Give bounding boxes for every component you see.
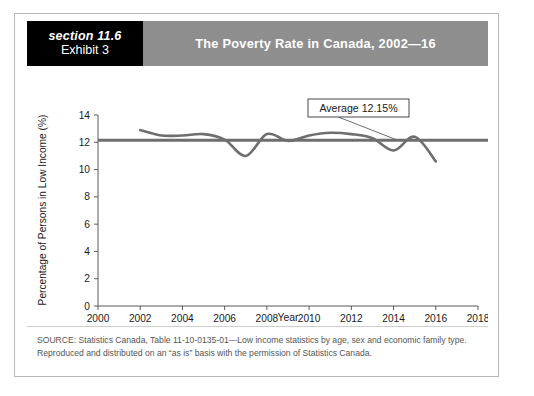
y-tick-label: 12 [79,137,91,148]
axes [98,115,478,306]
x-tick-label: 2004 [171,313,194,323]
x-tick-label: 2002 [129,313,152,323]
x-tick-label: 2006 [213,313,236,323]
y-axis: 02468101214 [79,110,98,312]
x-tick-label: 2012 [340,313,363,323]
source-divider [27,326,488,327]
section-block: section 11.6 Exhibit 3 [27,21,143,66]
x-tick-label: 2016 [424,313,447,323]
exhibit-label: Exhibit 3 [61,43,109,57]
x-axis-title: Year [278,312,300,322]
callout-label: Average 12.15% [319,102,398,114]
poverty-rate-line-chart: 02468101214 2000200220042006200820102012… [27,72,488,322]
exhibit-title: The Poverty Rate in Canada, 2002—16 [143,21,488,66]
x-tick-label: 2008 [256,313,279,323]
section-label: section 11.6 [48,29,121,43]
y-tick-label: 2 [84,273,90,284]
y-tick-label: 0 [84,301,90,312]
x-tick-label: 2014 [382,313,405,323]
x-tick-label: 2018 [467,313,488,323]
x-tick-label: 2010 [298,313,321,323]
average-callout: Average 12.15% [308,99,409,117]
source-note: SOURCE: Statistics Canada, Table 11-10-0… [37,334,483,361]
poverty-rate-line [140,130,436,161]
y-tick-label: 4 [84,246,90,257]
chart-svg: 02468101214 2000200220042006200820102012… [27,72,488,322]
y-tick-label: 8 [84,191,90,202]
y-tick-label: 10 [79,164,91,175]
exhibit-header: section 11.6 Exhibit 3 The Poverty Rate … [27,21,488,66]
exhibit-card: section 11.6 Exhibit 3 The Poverty Rate … [14,13,499,377]
y-tick-label: 6 [84,219,90,230]
y-axis-title: Percentage of Persons in Low Income (%) [37,115,48,306]
x-tick-label: 2000 [87,313,110,323]
y-tick-label: 14 [79,110,91,121]
